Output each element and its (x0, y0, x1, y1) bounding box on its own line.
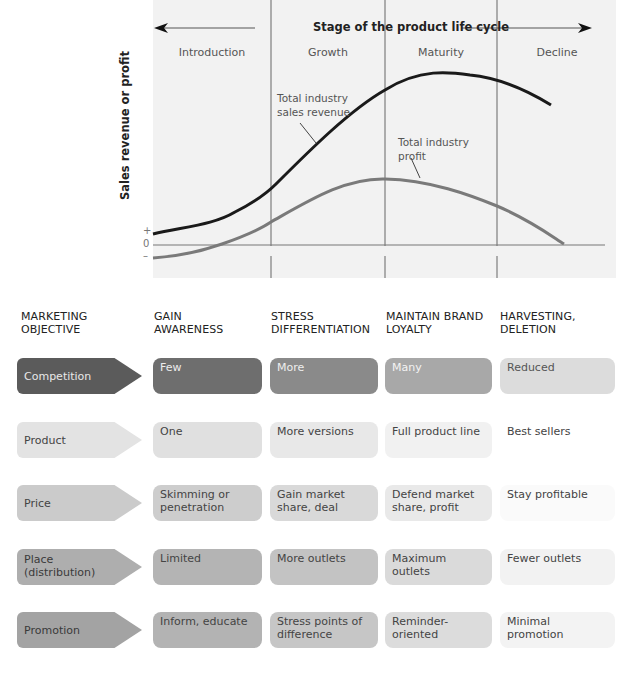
row-label-product: Product (17, 422, 142, 458)
stage-maturity: Maturity (386, 46, 496, 59)
profit-curve (153, 179, 564, 258)
cell-place-maturity: Maximumoutlets (385, 549, 492, 585)
col-head-maintain-brand-loyalty: MAINTAIN BRANDLOYALTY (386, 310, 483, 336)
profit-label: Total industry profit (398, 135, 469, 163)
cell-place-intro: Limited (153, 549, 262, 585)
cell-place-growth: More outlets (270, 549, 378, 585)
cell-price-maturity: Defend marketshare, profit (385, 485, 492, 521)
stage-growth: Growth (273, 46, 383, 59)
stage-title: Stage of the product life cycle (313, 20, 509, 34)
cell-product-maturity: Full product line (385, 422, 492, 458)
stage-arrow-left-icon (154, 23, 255, 33)
cell-promotion-intro: Inform, educate (153, 612, 262, 648)
product-life-cycle-chart (0, 0, 635, 290)
cell-competition-maturity: Many (385, 358, 492, 394)
axis-plus: + (143, 225, 151, 236)
revenue-pointer (300, 123, 316, 143)
col-head-gain-awareness: GAINAWARENESS (154, 310, 223, 336)
stage-introduction: Introduction (157, 46, 267, 59)
col-head-harvesting-deletion: HARVESTING,DELETION (500, 310, 576, 336)
stage-decline: Decline (502, 46, 612, 59)
cell-competition-decline: Reduced (500, 358, 615, 394)
row-label-promotion: Promotion (17, 612, 142, 648)
cell-price-intro: Skimming orpenetration (153, 485, 262, 521)
revenue-curve (153, 73, 551, 234)
cell-price-growth: Gain marketshare, deal (270, 485, 378, 521)
axis-zero: 0 (143, 238, 149, 249)
cell-product-growth: More versions (270, 422, 378, 458)
cell-price-decline: Stay profitable (500, 485, 615, 521)
col-head-marketing-objective: MARKETINGOBJECTIVE (21, 310, 87, 336)
row-label-place: Place(distribution) (17, 549, 142, 585)
cell-promotion-growth: Stress points ofdifference (270, 612, 378, 648)
cell-place-decline: Fewer outlets (500, 549, 615, 585)
cell-competition-intro: Few (153, 358, 262, 394)
y-axis-label: Sales revenue or profit (118, 51, 132, 200)
cell-competition-growth: More (270, 358, 378, 394)
row-label-price: Price (17, 485, 142, 521)
cell-product-intro: One (153, 422, 262, 458)
cell-product-decline: Best sellers (500, 422, 615, 458)
axis-minus: – (143, 250, 148, 261)
col-head-stress-differentiation: STRESSDIFFERENTIATION (271, 310, 370, 336)
revenue-label: Total industry sales revenue (277, 91, 350, 119)
row-label-competition: Competition (17, 358, 142, 394)
cell-promotion-maturity: Reminder-oriented (385, 612, 492, 648)
cell-promotion-decline: Minimalpromotion (500, 612, 615, 648)
